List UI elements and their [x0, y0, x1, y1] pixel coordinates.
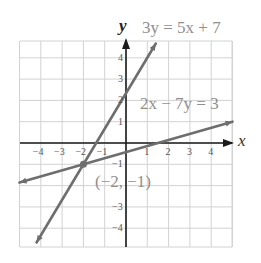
y-tick-label: −1 — [112, 158, 123, 169]
y-tick-label: −4 — [112, 222, 123, 233]
y-tick-label: 3 — [118, 73, 123, 84]
x-tick-label: 1 — [144, 146, 149, 157]
y-tick-label: 2 — [118, 94, 123, 105]
x-axis-label: x — [238, 131, 246, 151]
x-tick-label: 2 — [166, 146, 171, 157]
x-tick-label: −1 — [97, 146, 108, 157]
x-tick-label: −4 — [33, 146, 44, 157]
y-tick-label: −3 — [112, 201, 123, 212]
y-tick-label: 4 — [118, 52, 123, 63]
equation-label-2: 2x − 7y = 3 — [140, 94, 219, 114]
intersection-point — [80, 161, 87, 168]
x-tick-label: −2 — [75, 146, 86, 157]
x-tick-label: 4 — [208, 146, 213, 157]
y-tick-label: 1 — [118, 116, 123, 127]
coordinate-plane — [0, 0, 261, 263]
x-tick-label: 3 — [187, 146, 192, 157]
equation-label-1: 3y = 5x + 7 — [142, 18, 221, 38]
y-axis-label: y — [119, 16, 127, 36]
x-tick-label: −3 — [54, 146, 65, 157]
intersection-point-label: (−2, −1) — [95, 172, 151, 192]
